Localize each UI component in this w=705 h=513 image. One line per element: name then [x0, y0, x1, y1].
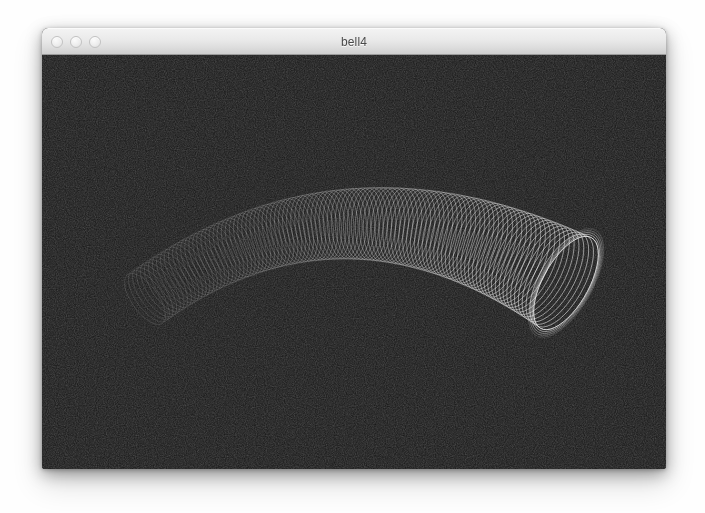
zoom-button[interactable] — [89, 36, 101, 48]
window-controls[interactable] — [51, 36, 101, 48]
close-button[interactable] — [51, 36, 63, 48]
desktop-background: bell4 — [0, 0, 705, 513]
window-titlebar[interactable]: bell4 — [42, 28, 666, 55]
wireframe-bell-render — [42, 55, 666, 469]
window-title: bell4 — [42, 29, 666, 55]
application-window[interactable]: bell4 — [42, 28, 666, 469]
3d-wireframe-viewport[interactable] — [42, 55, 666, 469]
minimize-button[interactable] — [70, 36, 82, 48]
